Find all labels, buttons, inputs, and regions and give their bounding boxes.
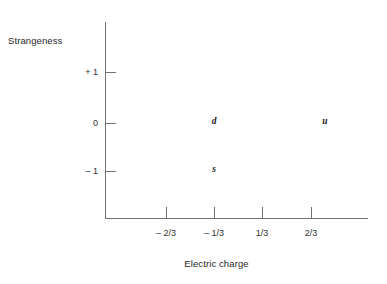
y-axis-tick-label-0: 0 (52, 118, 98, 128)
y-axis-line (105, 22, 106, 219)
scatter-plot-figure: Strangeness + 1 0 – 1 – 2/3 – 1/3 1/3 2/… (0, 0, 387, 284)
y-axis-tick-label-minus-1: – 1 (52, 166, 98, 176)
y-axis-label: Strangeness (8, 35, 62, 46)
data-point-u-quark: u (314, 116, 336, 126)
x-axis-line (105, 218, 368, 219)
y-axis-tick-label-plus-1: + 1 (52, 67, 98, 77)
x-axis-tick-mark (311, 207, 312, 219)
y-axis-tick-mark (105, 72, 116, 73)
y-axis-tick-mark (105, 171, 116, 172)
x-axis-tick-mark (214, 207, 215, 219)
x-axis-label: Electric charge (138, 258, 248, 269)
x-axis-label-container: Electric charge (0, 258, 387, 269)
x-axis-tick-label-two-thirds: 2/3 (281, 228, 341, 238)
data-point-s-quark: s (203, 164, 225, 174)
data-point-d-quark: d (203, 116, 225, 126)
y-axis-tick-mark (105, 123, 116, 124)
x-axis-tick-mark (262, 207, 263, 219)
x-axis-tick-mark (166, 207, 167, 219)
